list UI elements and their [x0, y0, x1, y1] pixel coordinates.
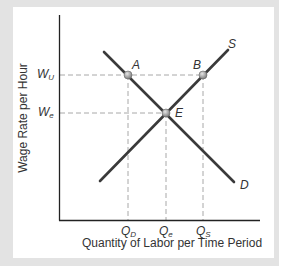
point-a-label: A [132, 58, 140, 72]
point-b-label: B [193, 58, 201, 72]
x-tick-qs: QS [196, 224, 211, 239]
demand-curve-label: D [240, 178, 249, 192]
x-tick-qe: Qe [159, 224, 173, 239]
x-tick-qd: QD [121, 224, 136, 239]
point-e-marker [162, 109, 170, 117]
y-tick-we: We [38, 105, 54, 120]
y-tick-wu: WU [37, 67, 54, 82]
point-b-marker [199, 71, 207, 79]
y-axis-label: Wage Rate per Hour [16, 63, 30, 173]
point-e-label: E [175, 106, 183, 120]
point-a-marker [124, 71, 132, 79]
supply-curve-label: S [228, 37, 236, 51]
demand-curve [104, 52, 234, 182]
